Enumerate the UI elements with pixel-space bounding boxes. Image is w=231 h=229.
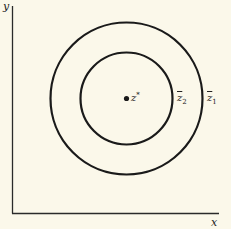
outer-circle-subscript: 1: [212, 98, 216, 106]
x-axis-label: x: [211, 217, 217, 228]
inner-circle-subscript: 2: [182, 98, 186, 106]
center-point-superscript: *: [136, 91, 140, 99]
center-dot: [124, 96, 129, 101]
outer-circle-label: z1: [207, 93, 217, 103]
diagram-canvas: [0, 0, 231, 229]
center-point-label: z*: [131, 93, 140, 103]
inner-circle-label: z2: [177, 93, 187, 103]
y-axis-label: y: [3, 1, 9, 12]
